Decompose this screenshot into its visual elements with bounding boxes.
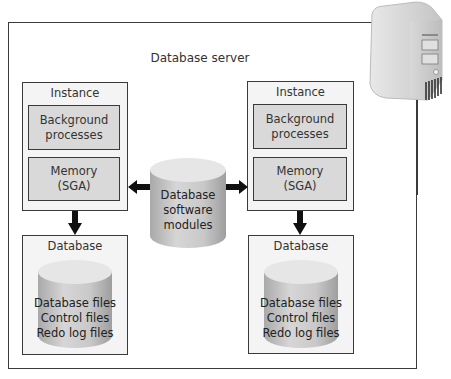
diagram-title: Database server [120,51,280,65]
background-line-2: processes [266,127,335,142]
memory-line-2: (SGA) [277,179,324,194]
background-processes-box: Backgroundprocesses [28,105,120,150]
server-connector-line [416,95,418,195]
arrow-left-icon [128,180,150,194]
cyl-line-3: modules [148,218,228,233]
arrow-down-left-icon [68,211,82,235]
instance-label: Instance [23,86,127,100]
file-item: Control files [256,311,346,326]
server-tower-icon [366,0,448,108]
arrow-right-icon [226,180,248,194]
database-label: Database [23,239,127,253]
database-files-list-right: Database files Control files Redo log fi… [256,296,346,341]
background-processes-box: Backgroundprocesses [253,104,347,149]
cyl-line-2: software [148,203,228,218]
memory-sga-box: Memory(SGA) [253,157,347,201]
software-modules-label: Database software modules [148,188,228,233]
memory-sga-box: Memory(SGA) [28,157,120,201]
arrow-down-right-icon [293,211,307,235]
database-files-list-left: Database files Control files Redo log fi… [30,296,120,341]
background-line-1: Background [40,113,109,128]
instance-panel-left: Instance Backgroundprocesses Memory(SGA) [22,82,128,211]
file-item: Redo log files [256,326,346,341]
file-item: Database files [30,296,120,311]
memory-line-1: Memory [277,164,324,179]
file-item: Control files [30,311,120,326]
instance-label: Instance [248,85,353,99]
instance-panel-right: Instance Backgroundprocesses Memory(SGA) [247,81,354,211]
memory-line-1: Memory [51,164,98,179]
background-line-2: processes [40,128,109,143]
background-line-1: Background [266,112,335,127]
cyl-line-1: Database [148,188,228,203]
database-label: Database [249,239,353,253]
file-item: Redo log files [30,326,120,341]
file-item: Database files [256,296,346,311]
memory-line-2: (SGA) [51,179,98,194]
